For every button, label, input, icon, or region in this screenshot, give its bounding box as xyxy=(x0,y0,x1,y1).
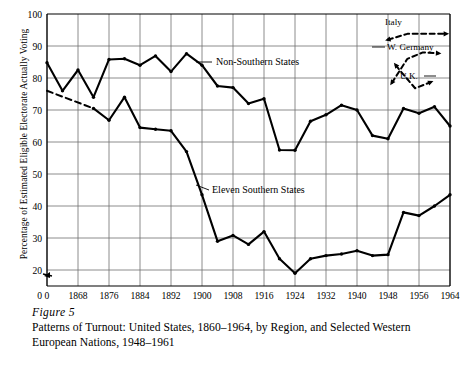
series-point-non-southern xyxy=(324,113,327,116)
series-point-non-southern xyxy=(309,120,312,123)
series-point-non-southern xyxy=(45,61,48,64)
series-point-eleven-southern xyxy=(92,107,95,110)
series-point-non-southern xyxy=(107,58,110,61)
xtick-1916: 1916 xyxy=(254,290,273,300)
series-point-non-southern xyxy=(216,84,219,87)
series-point-eleven-southern xyxy=(386,253,389,256)
series-point-eleven-southern xyxy=(324,254,327,257)
xtick-1956: 1956 xyxy=(409,290,428,300)
figure-number: Figure 5 xyxy=(32,306,442,321)
series-point-eleven-southern xyxy=(247,243,250,246)
series-point-eleven-southern xyxy=(340,252,343,255)
xtick-1908: 1908 xyxy=(223,290,242,300)
xtick-1900: 1900 xyxy=(192,290,211,300)
series-label-uk: U.K. xyxy=(400,71,418,81)
series-point-non-southern xyxy=(417,112,420,115)
series-point-non-southern xyxy=(402,107,405,110)
series-point-non-southern xyxy=(200,63,203,66)
ytick-90: 90 xyxy=(32,41,42,52)
series-label-non-southern: Non-Southern States xyxy=(216,56,299,67)
series-point-eleven-southern xyxy=(107,119,110,122)
annotation-eleven-southern: Eleven Southern States xyxy=(196,184,305,195)
series-point-non-southern xyxy=(169,70,172,73)
series-point-eleven-southern xyxy=(216,240,219,243)
ytick-50: 50 xyxy=(32,169,42,180)
x-tick-labels: 0 1868 1876 1884 1892 1900 1908 1916 192… xyxy=(45,290,460,300)
turnout-line-chart: 100 90 80 70 60 50 40 30 20 0 0 1868 187… xyxy=(0,0,467,300)
xtick-1932: 1932 xyxy=(316,290,335,300)
xtick-1884: 1884 xyxy=(130,290,149,300)
series-point-eleven-southern xyxy=(231,234,234,237)
series-point-eleven-southern xyxy=(448,193,451,196)
series-point-non-southern xyxy=(448,124,451,127)
series-point-eleven-southern xyxy=(278,257,281,260)
xtick-1892: 1892 xyxy=(161,290,180,300)
series-point-non-southern xyxy=(293,149,296,152)
ytick-0: 0 xyxy=(37,290,42,300)
ytick-70: 70 xyxy=(32,105,42,116)
xtick-origin: 0 xyxy=(45,290,50,300)
series-point-eleven-southern xyxy=(371,254,374,257)
xtick-1868: 1868 xyxy=(68,290,87,300)
series-point-non-southern xyxy=(433,105,436,108)
xtick-1940: 1940 xyxy=(347,290,366,300)
series-point-eleven-southern xyxy=(200,193,203,196)
ytick-30: 30 xyxy=(32,233,42,244)
series-point-eleven-southern xyxy=(293,272,296,275)
ytick-20: 20 xyxy=(32,265,42,276)
series-point-eleven-southern xyxy=(169,129,172,132)
ytick-100: 100 xyxy=(28,9,43,20)
series-point-non-southern xyxy=(123,57,126,60)
xtick-1964: 1964 xyxy=(440,290,459,300)
series-point-eleven-southern xyxy=(123,96,126,99)
series-point-eleven-southern xyxy=(138,126,141,129)
series-point-eleven-southern xyxy=(355,249,358,252)
series-point-non-southern xyxy=(61,89,64,92)
series-label-italy: Italy xyxy=(385,17,402,27)
series-point-eleven-southern xyxy=(309,257,312,260)
series-point-non-southern xyxy=(231,86,234,89)
series-point-non-southern xyxy=(371,134,374,137)
figure-caption-text: Patterns of Turnout: United States, 1860… xyxy=(32,321,442,351)
series-point-eleven-southern xyxy=(433,204,436,207)
series-point-eleven-southern xyxy=(417,214,420,217)
series-point-eleven-southern xyxy=(154,128,157,131)
series-label-w-germany: W. Germany xyxy=(387,42,434,52)
series-point-non-southern xyxy=(154,54,157,57)
ytick-60: 60 xyxy=(32,137,42,148)
series-point-eleven-southern xyxy=(262,230,265,233)
xtick-1924: 1924 xyxy=(285,290,304,300)
series-point-non-southern xyxy=(247,102,250,105)
series-point-non-southern xyxy=(76,68,79,71)
series-label-eleven-southern: Eleven Southern States xyxy=(212,184,305,195)
y-tick-labels: 100 90 80 70 60 50 40 30 20 0 xyxy=(28,9,43,300)
ytick-40: 40 xyxy=(32,201,42,212)
xtick-1948: 1948 xyxy=(378,290,397,300)
series-point-non-southern xyxy=(92,96,95,99)
annotation-italy: Italy xyxy=(385,17,402,27)
xtick-1876: 1876 xyxy=(99,290,118,300)
series-point-non-southern xyxy=(138,63,141,66)
series-point-non-southern xyxy=(262,97,265,100)
series-point-eleven-southern xyxy=(402,211,405,214)
series-point-non-southern xyxy=(185,52,188,55)
series-point-non-southern xyxy=(340,104,343,107)
figure-caption: Figure 5 Patterns of Turnout: United Sta… xyxy=(32,306,442,351)
series-point-non-southern xyxy=(386,137,389,140)
series-point-eleven-southern xyxy=(185,150,188,153)
ytick-80: 80 xyxy=(32,73,42,84)
series-point-non-southern xyxy=(278,148,281,151)
figure-5-container: Percentage of Estimated Eligible Elector… xyxy=(0,0,467,371)
series-point-non-southern xyxy=(355,108,358,111)
